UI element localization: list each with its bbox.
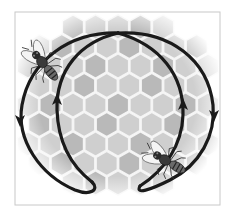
honeycomb-fade (16, 13, 219, 204)
illustration-svg (0, 0, 235, 224)
waggle-dance-illustration (0, 0, 235, 224)
